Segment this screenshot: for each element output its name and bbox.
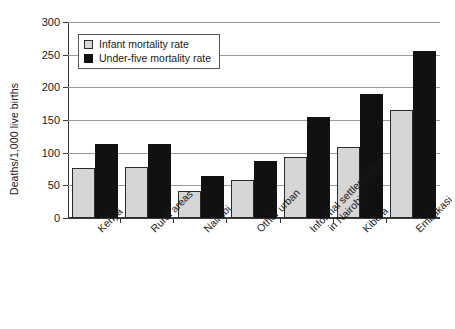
x-label-cell: Nairobi bbox=[174, 224, 227, 324]
legend-label: Infant mortality rate bbox=[99, 38, 189, 50]
y-tick-label: 150 bbox=[42, 114, 60, 126]
bar-group bbox=[387, 22, 440, 218]
y-tick-label: 0 bbox=[54, 212, 60, 224]
x-label-cell: Kibera bbox=[334, 224, 387, 324]
bar bbox=[72, 168, 95, 218]
legend-swatch-infant-mortality-rate bbox=[84, 40, 93, 49]
x-label-cell: Embakasi bbox=[387, 224, 440, 324]
bar bbox=[390, 110, 413, 218]
legend-item: Infant mortality rate bbox=[84, 38, 211, 50]
y-tick-label: 50 bbox=[48, 179, 60, 191]
x-label-cell: Kenya bbox=[68, 224, 121, 324]
bar-group bbox=[227, 22, 280, 218]
legend-item: Under-five mortality rate bbox=[84, 52, 211, 64]
y-tick-label: 100 bbox=[42, 147, 60, 159]
x-label-cell: Informal settlementsin Nairobi bbox=[281, 224, 334, 324]
x-tick-mark bbox=[386, 218, 387, 223]
bar bbox=[231, 180, 254, 218]
legend-swatch-under-five-mortality-rate bbox=[84, 54, 93, 63]
y-tick-label: 300 bbox=[42, 16, 60, 28]
x-label-cell: Other urban bbox=[227, 224, 280, 324]
y-tick-label: 250 bbox=[42, 49, 60, 61]
bar bbox=[413, 51, 436, 218]
y-tick-label: 200 bbox=[42, 81, 60, 93]
chart-legend: Infant mortality rate Under-five mortali… bbox=[78, 34, 220, 69]
bar bbox=[307, 117, 330, 218]
bar-group bbox=[281, 22, 334, 218]
x-axis-labels: KenyaRural areasNairobiOther urbanInform… bbox=[68, 224, 440, 324]
y-axis-title: Deaths/1,000 live births bbox=[8, 0, 26, 195]
bar bbox=[125, 167, 148, 218]
x-tick-mark bbox=[280, 218, 281, 223]
y-tick-mark bbox=[63, 218, 68, 219]
x-tick-mark bbox=[120, 218, 121, 223]
x-label-cell: Rural areas bbox=[121, 224, 174, 324]
x-tick-mark bbox=[173, 218, 174, 223]
x-tick-mark bbox=[226, 218, 227, 223]
legend-label: Under-five mortality rate bbox=[99, 52, 211, 64]
